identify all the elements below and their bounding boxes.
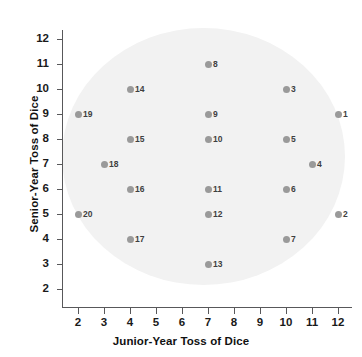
data-point-label: 16 bbox=[135, 185, 144, 194]
x-axis-tick bbox=[78, 308, 79, 314]
x-axis-tick-label: 6 bbox=[169, 317, 195, 329]
x-axis-line bbox=[62, 307, 352, 308]
data-point-label: 6 bbox=[291, 185, 296, 194]
y-axis-title: Senior-Year Toss of Dice bbox=[28, 64, 40, 264]
x-axis-tick bbox=[286, 308, 287, 314]
x-axis-tick bbox=[312, 308, 313, 314]
data-point-label: 7 bbox=[291, 235, 296, 244]
data-point-label: 2 bbox=[343, 210, 348, 219]
x-axis-tick-label: 8 bbox=[221, 317, 247, 329]
data-point bbox=[283, 136, 290, 143]
data-point-label: 9 bbox=[213, 110, 218, 119]
data-point-label: 19 bbox=[83, 110, 92, 119]
x-axis-tick-label: 3 bbox=[91, 317, 117, 329]
data-point-label: 15 bbox=[135, 135, 144, 144]
data-point-label: 14 bbox=[135, 85, 144, 94]
data-cloud-ellipse bbox=[62, 28, 345, 285]
y-axis-tick bbox=[57, 189, 63, 190]
data-point-label: 4 bbox=[317, 160, 322, 169]
y-axis-tick bbox=[57, 264, 63, 265]
data-point bbox=[205, 211, 212, 218]
data-point-label: 11 bbox=[213, 185, 222, 194]
data-point-label: 12 bbox=[213, 210, 222, 219]
data-point bbox=[127, 186, 134, 193]
x-axis-tick-label: 10 bbox=[273, 317, 299, 329]
y-axis-tick bbox=[57, 139, 63, 140]
x-axis-tick bbox=[182, 308, 183, 314]
data-point-label: 20 bbox=[83, 210, 92, 219]
data-point bbox=[335, 111, 342, 118]
x-axis-tick bbox=[234, 308, 235, 314]
data-point bbox=[75, 111, 82, 118]
data-point-label: 8 bbox=[213, 60, 218, 69]
data-point bbox=[127, 136, 134, 143]
data-point-label: 18 bbox=[109, 160, 118, 169]
data-point bbox=[205, 261, 212, 268]
y-axis-tick bbox=[57, 114, 63, 115]
x-axis-tick-label: 11 bbox=[299, 317, 325, 329]
data-point bbox=[75, 211, 82, 218]
plot-area: 23456789101112 23456789101112 1234567891… bbox=[0, 0, 362, 357]
scatter-plot: 23456789101112 23456789101112 1234567891… bbox=[0, 0, 362, 357]
x-axis-tick bbox=[208, 308, 209, 314]
y-axis-tick bbox=[57, 164, 63, 165]
data-point-label: 17 bbox=[135, 235, 144, 244]
x-axis-tick-label: 9 bbox=[247, 317, 273, 329]
x-axis-title: Junior-Year Toss of Dice bbox=[0, 335, 362, 347]
x-axis-tick bbox=[130, 308, 131, 314]
data-point bbox=[205, 186, 212, 193]
y-axis-line bbox=[62, 30, 63, 308]
data-point-label: 10 bbox=[213, 135, 222, 144]
data-point bbox=[205, 136, 212, 143]
x-axis-tick-label: 5 bbox=[143, 317, 169, 329]
x-axis-tick-label: 2 bbox=[65, 317, 91, 329]
x-axis-tick bbox=[156, 308, 157, 314]
x-axis-tick bbox=[260, 308, 261, 314]
data-point bbox=[205, 111, 212, 118]
x-axis-tick-label: 4 bbox=[117, 317, 143, 329]
data-point bbox=[101, 161, 108, 168]
data-point bbox=[205, 61, 212, 68]
data-point bbox=[283, 86, 290, 93]
x-axis-tick bbox=[104, 308, 105, 314]
data-point bbox=[283, 186, 290, 193]
y-axis-tick bbox=[57, 239, 63, 240]
y-axis-tick-label: 12 bbox=[23, 33, 49, 45]
y-axis-tick bbox=[57, 64, 63, 65]
y-axis-tick bbox=[57, 89, 63, 90]
data-point-label: 3 bbox=[291, 85, 296, 94]
x-axis-tick bbox=[338, 308, 339, 314]
data-point bbox=[127, 86, 134, 93]
data-point-label: 5 bbox=[291, 135, 296, 144]
data-point bbox=[283, 236, 290, 243]
x-axis-tick-label: 12 bbox=[325, 317, 351, 329]
y-axis-tick bbox=[57, 39, 63, 40]
data-point-label: 13 bbox=[213, 260, 222, 269]
y-axis-tick bbox=[57, 214, 63, 215]
x-axis-tick-label: 7 bbox=[195, 317, 221, 329]
data-point bbox=[309, 161, 316, 168]
data-point-label: 1 bbox=[343, 110, 348, 119]
y-axis-tick-label: 2 bbox=[23, 283, 49, 295]
data-point bbox=[127, 236, 134, 243]
y-axis-tick bbox=[57, 289, 63, 290]
data-point bbox=[335, 211, 342, 218]
